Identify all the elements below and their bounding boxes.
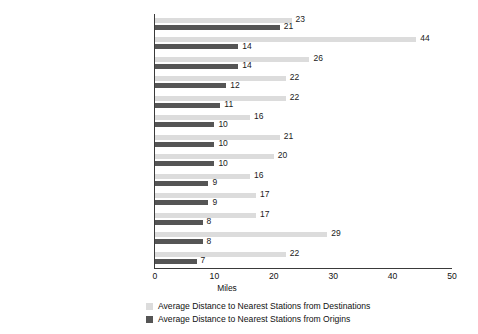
bar-destinations — [155, 57, 309, 62]
bar-destinations — [155, 213, 256, 218]
bar-value-destinations: 17 — [260, 190, 269, 199]
bar-value-destinations: 21 — [284, 132, 293, 141]
x-tick-label: 50 — [447, 272, 457, 281]
bar-value-origins: 9 — [212, 178, 217, 187]
bar-value-destinations: 26 — [313, 54, 322, 63]
bar-value-origins: 8 — [207, 237, 212, 246]
chart-row: Work2212 — [155, 73, 452, 93]
x-tick-label: 10 — [210, 272, 220, 281]
bar-destinations — [155, 76, 286, 81]
bar-origins — [155, 25, 280, 30]
chart-row: Return home169 — [155, 170, 452, 190]
x-tick-label: 0 — [153, 272, 158, 281]
bar-destinations — [155, 37, 416, 42]
bar-origins — [155, 142, 214, 147]
chart-row: Business (Work-related)179 — [155, 190, 452, 210]
bar-value-destinations: 29 — [331, 229, 340, 238]
bar-chart: Medical2321Outdoor recreation4414Other26… — [0, 0, 478, 334]
chart-row: School227 — [155, 248, 452, 268]
legend-item[interactable]: Average Distance to Nearest Stations fro… — [146, 313, 370, 326]
bar-destinations — [155, 232, 327, 237]
bar-value-origins: 12 — [230, 81, 239, 90]
bar-origins — [155, 239, 203, 244]
plot-area: Medical2321Outdoor recreation4414Other26… — [155, 14, 452, 268]
bar-value-destinations: 23 — [296, 15, 305, 24]
bar-value-origins: 21 — [284, 22, 293, 31]
bar-origins — [155, 181, 208, 186]
bar-origins — [155, 259, 197, 264]
legend-swatch-icon — [146, 303, 153, 310]
bar-origins — [155, 44, 238, 49]
bar-origins — [155, 83, 226, 88]
chart-legend: Average Distance to Nearest Stations fro… — [146, 300, 370, 326]
chart-row: Drive someone else1610 — [155, 112, 452, 132]
bar-value-origins: 10 — [218, 159, 227, 168]
bar-value-origins: 14 — [242, 42, 251, 51]
bar-value-origins: 7 — [201, 256, 206, 265]
chart-row: Entertainment2010 — [155, 151, 452, 171]
bar-destinations — [155, 135, 280, 140]
bar-value-destinations: 22 — [290, 93, 299, 102]
x-tick-label: 20 — [269, 272, 279, 281]
bar-value-origins: 8 — [207, 217, 212, 226]
bar-value-destinations: 44 — [420, 34, 429, 43]
x-axis-title-label: Miles — [217, 283, 237, 293]
chart-row: Medical2321 — [155, 14, 452, 34]
x-tick-label: 30 — [328, 272, 338, 281]
legend-label: Average Distance to Nearest Stations fro… — [158, 313, 350, 326]
bar-value-origins: 14 — [242, 61, 251, 70]
legend-swatch-icon — [146, 316, 153, 323]
chart-row: Other2614 — [155, 53, 452, 73]
bar-destinations — [155, 252, 286, 257]
bar-origins — [155, 64, 238, 69]
chart-row: Personal2211 — [155, 92, 452, 112]
bar-origins — [155, 220, 203, 225]
x-axis-line — [154, 268, 452, 269]
chart-row: Outdoor recreation4414 — [155, 34, 452, 54]
bar-destinations — [155, 193, 256, 198]
legend-label: Average Distance to Nearest Stations fro… — [158, 300, 370, 313]
bar-value-destinations: 22 — [290, 73, 299, 82]
chart-row: Combined Business & Pleasure178 — [155, 209, 452, 229]
bar-destinations — [155, 174, 250, 179]
bar-origins — [155, 161, 214, 166]
bar-origins — [155, 122, 214, 127]
bar-destinations — [155, 18, 292, 23]
bar-origins — [155, 200, 208, 205]
bar-origins — [155, 103, 220, 108]
bar-destinations — [155, 115, 250, 120]
bar-value-destinations: 16 — [254, 112, 263, 121]
bar-value-destinations: 17 — [260, 210, 269, 219]
bar-value-origins: 9 — [212, 198, 217, 207]
chart-row: Visit Friends & Family2110 — [155, 131, 452, 151]
legend-item[interactable]: Average Distance to Nearest Stations fro… — [146, 300, 370, 313]
x-axis-title: Miles — [0, 283, 478, 293]
bar-value-destinations: 20 — [278, 151, 287, 160]
bar-value-destinations: 22 — [290, 249, 299, 258]
bar-value-destinations: 16 — [254, 171, 263, 180]
bar-value-origins: 10 — [218, 120, 227, 129]
bar-destinations — [155, 96, 286, 101]
chart-row: Vacation/sightseeing298 — [155, 229, 452, 249]
bar-value-origins: 11 — [224, 100, 233, 109]
bar-destinations — [155, 154, 274, 159]
x-tick-label: 40 — [388, 272, 398, 281]
bar-value-origins: 10 — [218, 139, 227, 148]
